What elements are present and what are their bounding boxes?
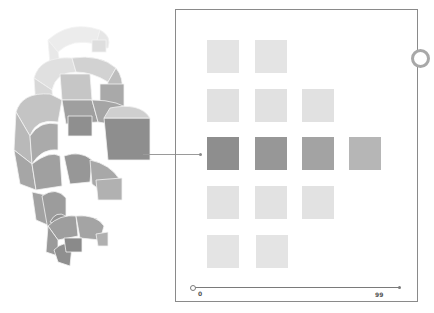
grid-cell-r1-c2 — [255, 40, 287, 73]
axis-start-label: 0 — [198, 290, 202, 297]
grid-cell-r3-c2 — [255, 137, 287, 170]
axis-end-label: 99 — [375, 291, 383, 298]
axis-start-circle-icon — [190, 285, 196, 291]
helix-illustration — [0, 0, 180, 313]
grid-cell-r4-c1 — [207, 186, 239, 219]
grid-cell-r2-c2 — [255, 89, 287, 122]
grid-cell-r1-c1 — [207, 40, 239, 73]
grid-cell-r5-c1 — [207, 235, 239, 268]
grid-cell-r4-c2 — [255, 186, 287, 219]
grid-cell-r2-c1 — [207, 89, 239, 122]
axis-line — [194, 287, 400, 288]
grid-cell-r5-c2 — [256, 235, 288, 268]
grid-cell-r3-c4 — [349, 137, 381, 170]
grid-cell-r3-c1 — [207, 137, 239, 170]
grid-cell-r2-c3 — [302, 89, 334, 122]
axis-end-arrow-icon — [398, 286, 401, 289]
grid-cell-r4-c3 — [302, 186, 334, 219]
grid-cell-r3-c3 — [302, 137, 334, 170]
ring-handle-icon[interactable] — [411, 49, 430, 68]
